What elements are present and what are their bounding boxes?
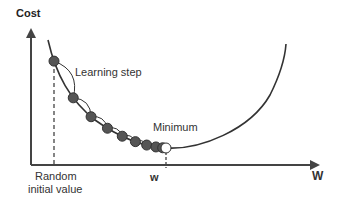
step-point xyxy=(68,93,78,103)
y-axis-label: Cost xyxy=(16,7,41,19)
step-point xyxy=(49,56,59,66)
minimum-point xyxy=(161,143,171,153)
random-initial-label-line2: initial value xyxy=(28,183,82,195)
step-point xyxy=(102,123,112,133)
step-point xyxy=(130,137,140,147)
minimum-label: Minimum xyxy=(153,121,198,133)
step-point xyxy=(142,140,152,150)
x-axis-label: W xyxy=(312,169,324,183)
w-min-label: w xyxy=(149,171,159,183)
step-point xyxy=(86,112,96,122)
gradient-descent-diagram: Cost W Learning step Minimum Random init… xyxy=(0,0,340,201)
learning-step-arc xyxy=(54,61,75,98)
random-initial-label-line1: Random xyxy=(35,170,77,182)
learning-step-label: Learning step xyxy=(75,66,142,78)
step-point xyxy=(117,131,127,141)
